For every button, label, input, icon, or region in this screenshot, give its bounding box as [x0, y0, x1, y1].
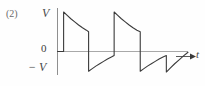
waveform-figure: (2) V 0 − V t — [0, 0, 205, 86]
waveform-curve — [58, 12, 189, 72]
plot-area — [0, 0, 205, 86]
